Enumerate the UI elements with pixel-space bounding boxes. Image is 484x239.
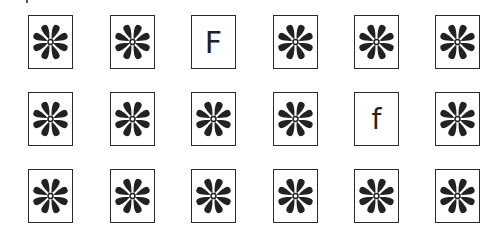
flower-cell <box>28 169 73 223</box>
corner-mark <box>26 0 28 3</box>
flower-icon <box>436 16 479 68</box>
letter-label: f <box>355 93 398 145</box>
flower-icon <box>29 93 72 145</box>
flower-icon <box>274 16 317 68</box>
flower-cell <box>273 92 318 146</box>
letter-label: F <box>192 16 235 68</box>
flower-icon <box>274 170 317 222</box>
letter-cell: F <box>191 15 236 69</box>
flower-cell <box>273 15 318 69</box>
flower-icon <box>192 93 235 145</box>
flower-cell <box>110 15 155 69</box>
letter-cell: f <box>354 92 399 146</box>
flower-cell <box>110 169 155 223</box>
flower-icon <box>436 93 479 145</box>
flower-icon <box>436 170 479 222</box>
flower-cell <box>28 15 73 69</box>
flower-icon <box>355 170 398 222</box>
flower-cell <box>354 15 399 69</box>
flower-icon <box>29 16 72 68</box>
flower-icon <box>192 170 235 222</box>
flower-cell <box>435 92 480 146</box>
flower-cell <box>354 169 399 223</box>
flower-icon <box>274 93 317 145</box>
flower-icon <box>111 16 154 68</box>
symbol-grid: Ff <box>0 0 484 239</box>
flower-icon <box>111 93 154 145</box>
flower-cell <box>435 169 480 223</box>
flower-cell <box>110 92 155 146</box>
flower-cell <box>435 15 480 69</box>
flower-cell <box>273 169 318 223</box>
flower-cell <box>191 92 236 146</box>
flower-icon <box>111 170 154 222</box>
flower-icon <box>29 170 72 222</box>
flower-icon <box>355 16 398 68</box>
flower-cell <box>28 92 73 146</box>
flower-cell <box>191 169 236 223</box>
